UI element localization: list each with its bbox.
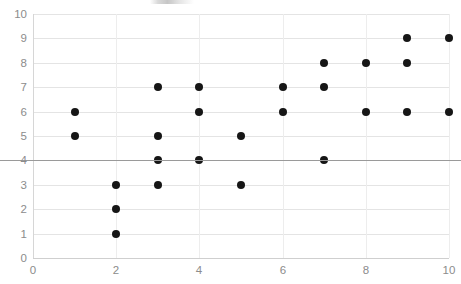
scatter-chart: 012345678910 0246810 [0, 0, 461, 284]
data-point [362, 59, 370, 67]
x-tick-label-0: 0 [30, 264, 36, 276]
x-tick-label-10: 10 [443, 264, 456, 276]
y-tick-label-10: 10 [14, 8, 27, 20]
y-tick-label-9: 9 [21, 32, 27, 44]
gridline-y-10 [33, 14, 449, 15]
data-point [237, 181, 245, 189]
data-point [320, 59, 328, 67]
data-point [71, 108, 79, 116]
data-point [445, 34, 453, 42]
y-axis-tick-labels: 012345678910 [0, 14, 27, 258]
y-tick-label-2: 2 [21, 203, 27, 215]
x-tick-label-8: 8 [363, 264, 369, 276]
data-point [112, 181, 120, 189]
x-axis-line [33, 258, 449, 259]
gridline-x-2 [116, 14, 117, 258]
gridline-y-6 [33, 112, 449, 113]
data-point [195, 83, 203, 91]
data-point [237, 132, 245, 140]
data-point [320, 83, 328, 91]
gridline-x-6 [283, 14, 284, 258]
data-point [279, 83, 287, 91]
gridline-y-2 [33, 209, 449, 210]
data-point [403, 108, 411, 116]
data-point [154, 83, 162, 91]
data-point [112, 230, 120, 238]
data-point [154, 132, 162, 140]
cropped-title-artifact [150, 0, 194, 4]
data-point [362, 108, 370, 116]
data-point [195, 108, 203, 116]
data-point [403, 34, 411, 42]
gridline-x-10 [449, 14, 450, 258]
x-tick-label-6: 6 [280, 264, 286, 276]
data-point [112, 205, 120, 213]
y-tick-label-7: 7 [21, 81, 27, 93]
y-tick-label-6: 6 [21, 106, 27, 118]
y-tick-label-3: 3 [21, 179, 27, 191]
x-tick-label-2: 2 [113, 264, 119, 276]
y-tick-label-1: 1 [21, 228, 27, 240]
x-tick-label-4: 4 [196, 264, 202, 276]
y-tick-label-0: 0 [21, 252, 27, 264]
gridline-x-4 [199, 14, 200, 258]
emphasis-line-y4 [0, 160, 461, 161]
data-point [71, 132, 79, 140]
y-tick-label-4: 4 [21, 154, 27, 166]
gridline-x-8 [366, 14, 367, 258]
data-point [403, 59, 411, 67]
data-point [279, 108, 287, 116]
data-point [445, 108, 453, 116]
gridline-y-1 [33, 234, 449, 235]
x-axis-tick-labels: 0246810 [33, 264, 449, 278]
y-tick-label-8: 8 [21, 57, 27, 69]
gridline-y-8 [33, 63, 449, 64]
y-axis-line [33, 14, 34, 258]
y-tick-label-5: 5 [21, 130, 27, 142]
data-point [154, 181, 162, 189]
plot-area [33, 14, 449, 258]
gridline-y-7 [33, 87, 449, 88]
gridline-y-9 [33, 38, 449, 39]
